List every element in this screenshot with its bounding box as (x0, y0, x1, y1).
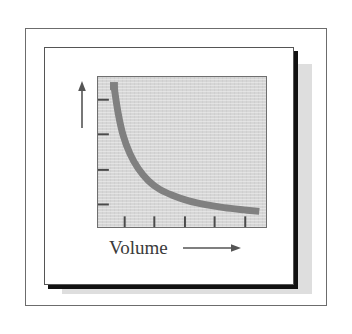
x-axis-label-group: Volume (97, 232, 272, 266)
plot-svg (98, 77, 266, 227)
x-axis-ticks (125, 216, 246, 227)
y-axis-ticks (98, 100, 109, 205)
x-axis-label-text: Volume (109, 237, 168, 258)
y-axis-label-group: Pressure (58, 76, 92, 228)
x-axis-label-svg: Volume (97, 232, 272, 266)
right-arrow-icon (183, 244, 241, 252)
curve-start-cap (110, 82, 118, 90)
y-axis-label-svg: Pressure (58, 76, 92, 228)
pressure-volume-curve (114, 86, 259, 211)
plot-area (97, 76, 267, 228)
pressure-volume-figure: Pressure Volume (0, 0, 352, 334)
up-arrow-icon (78, 81, 86, 128)
